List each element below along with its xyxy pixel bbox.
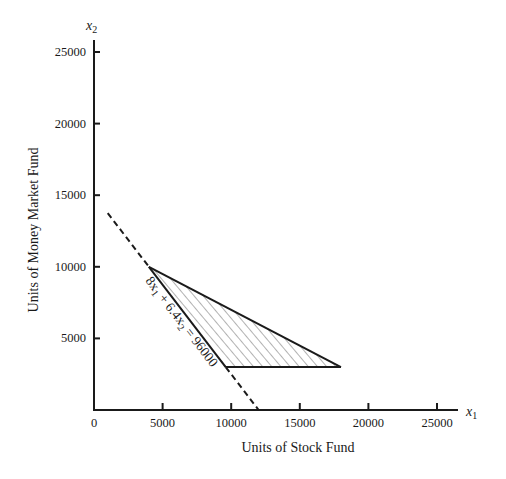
x-tick-label: 5000 xyxy=(150,416,175,430)
x-tick-label: 15000 xyxy=(284,416,315,430)
x-tick-label: 20000 xyxy=(353,416,384,430)
x-tick-label: 25000 xyxy=(421,416,452,430)
chart-canvas: 500010000150002000025000 050001000015000… xyxy=(0,0,506,479)
y-tick-label: 10000 xyxy=(55,260,86,274)
y-tick-label: 20000 xyxy=(55,117,86,131)
y-tick-label: 5000 xyxy=(61,331,86,345)
y-axis-title: Units of Money Market Fund xyxy=(26,148,41,313)
y-tick-label: 15000 xyxy=(55,188,86,202)
x-tick-label: 0 xyxy=(91,416,97,430)
y-variable-label: x2 xyxy=(85,18,97,35)
constraint-line-dashed-upper xyxy=(108,213,149,267)
x-tick-label: 10000 xyxy=(216,416,247,430)
x-axis-ticks: 0500010000150002000025000 xyxy=(91,403,453,430)
x-variable-label: x1 xyxy=(465,404,477,421)
x-axis-title: Units of Stock Fund xyxy=(241,440,354,455)
y-tick-label: 25000 xyxy=(55,45,86,59)
